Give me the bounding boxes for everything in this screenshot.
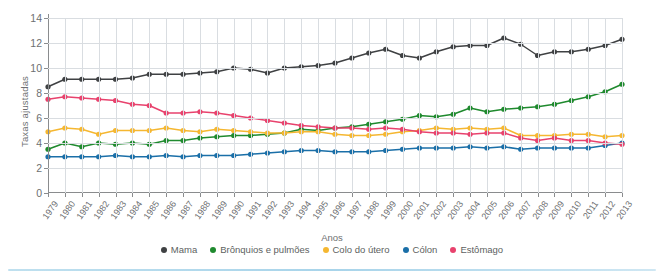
y-axis-tick-label: 12	[30, 37, 42, 49]
x-axis-tick-mark	[234, 193, 235, 197]
legend-item[interactable]: Estômago	[450, 244, 503, 255]
gridline-vertical	[335, 18, 336, 193]
x-axis-tick-mark	[470, 193, 471, 197]
gridline-vertical	[251, 18, 252, 193]
x-axis-tick-mark	[318, 193, 319, 197]
legend-item[interactable]: Colo do útero	[323, 244, 390, 255]
x-axis-tick-mark	[605, 193, 606, 197]
legend-label: Cólon	[413, 244, 438, 255]
gridline-vertical	[267, 18, 268, 193]
x-axis-tick-mark	[335, 193, 336, 197]
y-axis-tick-mark	[44, 68, 48, 69]
x-axis-tick-mark	[419, 193, 420, 197]
gridline-vertical	[571, 18, 572, 193]
x-axis-tick-mark	[571, 193, 572, 197]
x-axis-tick-mark	[116, 193, 117, 197]
legend-label: Brônquios e pulmões	[220, 244, 309, 255]
gridline-vertical	[318, 18, 319, 193]
x-axis-tick-mark	[217, 193, 218, 197]
gridline-vertical	[132, 18, 133, 193]
x-axis-tick-mark	[166, 193, 167, 197]
legend-item[interactable]: Cólon	[403, 244, 438, 255]
gridline-vertical	[217, 18, 218, 193]
gridline-vertical	[487, 18, 488, 193]
gridline-vertical	[166, 18, 167, 193]
y-axis-title: Taxas ajustadas	[19, 42, 30, 182]
legend-item[interactable]: Brônquios e pulmões	[210, 244, 309, 255]
y-axis-tick-label: 2	[36, 162, 42, 174]
gridline-vertical	[403, 18, 404, 193]
legend-label: Estômago	[460, 244, 503, 255]
gridline-vertical	[352, 18, 353, 193]
gridline-vertical	[82, 18, 83, 193]
gridline-vertical	[504, 18, 505, 193]
y-axis-tick-label: 0	[36, 187, 42, 199]
x-axis-tick-mark	[554, 193, 555, 197]
y-axis-tick-mark	[44, 93, 48, 94]
gridline-vertical	[116, 18, 117, 193]
gridline-vertical	[622, 18, 623, 193]
gridline-vertical	[284, 18, 285, 193]
y-axis-tick-mark	[44, 143, 48, 144]
y-axis-tick-mark	[44, 168, 48, 169]
gridline-vertical	[200, 18, 201, 193]
gridline-vertical	[65, 18, 66, 193]
y-axis-tick-label: 8	[36, 87, 42, 99]
x-axis-tick-mark	[82, 193, 83, 197]
x-axis-tick-mark	[149, 193, 150, 197]
gridline-vertical	[149, 18, 150, 193]
x-axis-tick-mark	[352, 193, 353, 197]
x-axis-tick-mark	[521, 193, 522, 197]
gridline-vertical	[538, 18, 539, 193]
y-axis-line	[48, 14, 49, 197]
gridline-vertical	[453, 18, 454, 193]
gridline-vertical	[183, 18, 184, 193]
x-axis-tick-mark	[284, 193, 285, 197]
gridline-vertical	[470, 18, 471, 193]
legend-label: Colo do útero	[333, 244, 390, 255]
y-axis-tick-mark	[44, 118, 48, 119]
gridline-vertical	[605, 18, 606, 193]
x-axis-tick-mark	[48, 193, 49, 197]
gridline-vertical	[588, 18, 589, 193]
x-axis-tick-mark	[369, 193, 370, 197]
x-axis-tick-mark	[301, 193, 302, 197]
chart-legend: MamaBrônquios e pulmõesColo do úteroCólo…	[0, 244, 664, 255]
gridline-vertical	[554, 18, 555, 193]
legend-marker-icon	[403, 247, 409, 253]
y-axis-tick-label: 4	[36, 137, 42, 149]
y-axis-tick-mark	[44, 43, 48, 44]
legend-item[interactable]: Mama	[161, 244, 197, 255]
x-axis-tick-mark	[453, 193, 454, 197]
x-axis-tick-mark	[588, 193, 589, 197]
legend-label: Mama	[171, 244, 197, 255]
y-axis-tick-label: 14	[30, 12, 42, 24]
x-axis-tick-mark	[504, 193, 505, 197]
gridline-vertical	[419, 18, 420, 193]
gridline-vertical	[99, 18, 100, 193]
x-axis-tick-mark	[99, 193, 100, 197]
x-axis-tick-mark	[487, 193, 488, 197]
legend-marker-icon	[210, 247, 216, 253]
x-axis-tick-mark	[251, 193, 252, 197]
y-axis-tick-label: 10	[30, 62, 42, 74]
y-axis-tick-label: 6	[36, 112, 42, 124]
chart-figure: Taxas ajustadas 02468101214 197919801981…	[0, 0, 664, 276]
legend-marker-icon	[323, 247, 329, 253]
x-axis-tick-mark	[403, 193, 404, 197]
x-axis-tick-mark	[132, 193, 133, 197]
gridline-vertical	[234, 18, 235, 193]
x-axis-tick-mark	[386, 193, 387, 197]
x-axis-tick-mark	[267, 193, 268, 197]
x-axis-tick-mark	[65, 193, 66, 197]
gridline-vertical	[301, 18, 302, 193]
x-axis-tick-mark	[622, 193, 623, 197]
x-axis-tick-mark	[200, 193, 201, 197]
bottom-divider	[8, 269, 656, 271]
legend-marker-icon	[450, 247, 456, 253]
x-axis-tick-mark	[436, 193, 437, 197]
legend-marker-icon	[161, 247, 167, 253]
x-axis-title: Anos	[0, 232, 664, 243]
x-axis-tick-mark	[183, 193, 184, 197]
gridline-vertical	[521, 18, 522, 193]
